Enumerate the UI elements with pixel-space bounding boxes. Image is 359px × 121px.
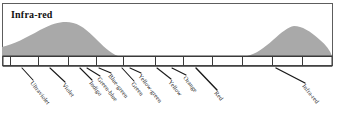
spectrum-labels-layer: Ultraviolet Violet Indigo Green-blue Blu…: [0, 0, 359, 121]
figure-root: Infra-red: [0, 0, 359, 121]
spectrum-label-yellow: Yellow: [167, 78, 184, 97]
spectrum-label-ultraviolet: Ultraviolet: [29, 79, 52, 105]
spectrum-label-orange: Orange: [182, 74, 199, 93]
spectrum-label-violet: Violet: [61, 81, 76, 98]
spectrum-label-infra-red: Infra-red: [301, 82, 321, 104]
spectrum-label-red: Red: [213, 89, 225, 101]
